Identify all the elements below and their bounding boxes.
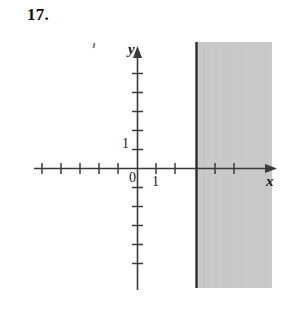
y-axis-label: y bbox=[128, 42, 135, 57]
figure-root: 17. bbox=[0, 0, 288, 323]
plot-svg bbox=[0, 0, 288, 323]
x-axis-label: x bbox=[266, 174, 274, 189]
x-axis-tick-label-1: 1 bbox=[152, 175, 159, 189]
origin-label: 0 bbox=[129, 171, 136, 185]
y-axis-tick-label-1: 1 bbox=[122, 137, 129, 151]
coordinate-plane-plot: y x 0 1 1 bbox=[0, 0, 288, 323]
